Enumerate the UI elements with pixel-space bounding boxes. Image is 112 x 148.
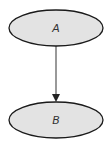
node-a-label: A (51, 22, 60, 35)
node-a[interactable]: A (9, 10, 103, 46)
node-b-label: B (52, 114, 60, 127)
diagram-canvas: A B (0, 0, 112, 148)
node-b[interactable]: B (9, 102, 103, 138)
